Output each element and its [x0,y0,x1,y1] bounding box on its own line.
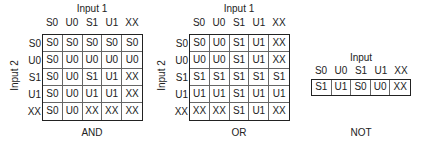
column-header: S0 [311,65,331,76]
table-cell: S1 [249,69,269,86]
table-cell: S1 [230,69,250,86]
or-column-headers: S0 U0 S1 U1 XX [189,17,289,28]
row-header: U0 [172,52,188,69]
table-cell: U0 [63,69,83,86]
row-header: XX [172,103,188,120]
table-cell: U0 [122,52,142,69]
table-cell: U0 [83,52,103,69]
column-header: XX [391,65,411,76]
table-cell: S1 [83,69,103,86]
table-cell: XX [390,80,410,95]
table-cell: S1 [230,52,250,69]
and-row-headers: S0 U0 S1 U1 XX [25,35,41,120]
table-cell: XX [269,35,289,52]
column-header: U0 [209,17,229,28]
row-header: S1 [25,69,41,86]
table-cell: S0 [43,103,63,120]
column-header: XX [269,17,289,28]
table-cell: S0 [122,35,142,52]
and-input1-label: Input 1 [67,3,117,14]
not-input-label: Input [336,52,386,63]
or-grid: S0U0S1U1XXU0U0S1U1XXS1S1S1S1S1U1U1S1U1U1… [189,34,290,121]
table-cell: U0 [190,52,210,69]
table-cell: S0 [43,35,63,52]
table-cell: XX [269,103,289,120]
row-header: S0 [25,35,41,52]
column-header: S1 [351,65,371,76]
column-header: S0 [42,17,62,28]
row-header: XX [25,103,41,120]
table-cell: XX [122,86,142,103]
and-input2-label: Input 2 [9,56,20,96]
table-cell: XX [122,69,142,86]
table-cell: S0 [43,52,63,69]
table-cell: S0 [83,35,103,52]
table-cell: XX [269,52,289,69]
table-cell: U0 [210,52,230,69]
or-caption: OR [214,127,264,138]
table-cell: U0 [63,52,83,69]
table-cell: S1 [230,35,250,52]
table-cell: S0 [63,35,83,52]
table-cell: S1 [230,86,250,103]
table-cell: XX [210,103,230,120]
table-cell: U0 [63,86,83,103]
table-cell: S1 [190,69,210,86]
and-grid: S0S0S0S0S0S0U0U0U0U0S0U0S1U1XXS0U0U1U1XX… [42,34,143,121]
column-header: U1 [249,17,269,28]
table-cell: U1 [249,86,269,103]
table-cell: U1 [190,86,210,103]
column-header: XX [122,17,142,28]
table-cell: U1 [210,86,230,103]
row-header: U1 [172,86,188,103]
table-cell: U1 [102,69,122,86]
column-header: U0 [331,65,351,76]
row-header: S1 [172,69,188,86]
table-cell: XX [190,103,210,120]
table-cell: S0 [190,35,210,52]
table-cell: U1 [102,86,122,103]
table-cell: U1 [249,52,269,69]
table-cell: XX [122,103,142,120]
table-cell: XX [102,103,122,120]
not-column-headers: S0 U0 S1 U1 XX [311,65,411,76]
table-cell: S0 [43,86,63,103]
row-header: U1 [25,86,41,103]
table-cell: U0 [102,52,122,69]
column-header: U0 [62,17,82,28]
table-cell: U0 [371,80,391,95]
table-cell: S0 [351,80,371,95]
table-cell: S1 [210,69,230,86]
table-cell: S1 [230,103,250,120]
column-header: U1 [371,65,391,76]
or-input1-label: Input 1 [214,3,264,14]
table-cell: U0 [63,103,83,120]
table-cell: U1 [83,86,103,103]
and-caption: AND [67,127,117,138]
table-cell: S0 [102,35,122,52]
not-caption: NOT [336,127,386,138]
table-cell: S1 [269,69,289,86]
row-header: U0 [25,52,41,69]
column-header: U1 [102,17,122,28]
column-header: S1 [229,17,249,28]
column-header: S1 [82,17,102,28]
or-row-headers: S0 U0 S1 U1 XX [172,35,188,120]
not-grid: S1U1S0U0XX [311,79,411,96]
table-cell: S0 [43,69,63,86]
table-cell: U1 [332,80,352,95]
column-header: S0 [189,17,209,28]
table-cell: U0 [210,35,230,52]
and-column-headers: S0 U0 S1 U1 XX [42,17,142,28]
table-cell: U1 [249,35,269,52]
table-cell: XX [83,103,103,120]
table-cell: U1 [269,86,289,103]
or-input2-label: Input 2 [156,56,167,96]
row-header: S0 [172,35,188,52]
table-cell: U1 [249,103,269,120]
table-cell: S1 [312,80,332,95]
